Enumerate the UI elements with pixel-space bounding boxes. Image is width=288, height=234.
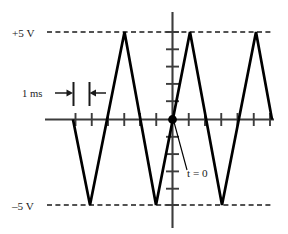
one-millisecond-label: 1 ms: [22, 88, 42, 99]
minus-five-volt-label: –5 V: [11, 200, 34, 212]
waveform-figure: +5 V –5 V 1 ms t = 0: [0, 0, 288, 234]
plus-five-volt-label: +5 V: [12, 27, 35, 39]
origin-point-marker: [168, 115, 177, 124]
waveform-svg: +5 V –5 V 1 ms t = 0: [0, 0, 288, 234]
interval-arrow-left-head: [67, 90, 74, 97]
t-equals-zero-label: t = 0: [187, 167, 208, 179]
origin-callout-leader: [174, 122, 187, 170]
